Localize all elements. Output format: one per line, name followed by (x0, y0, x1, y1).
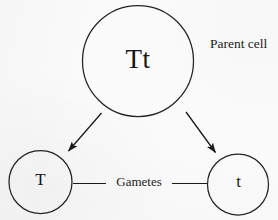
parent-cell-genotype: Tt (103, 46, 173, 73)
arrow-to-right-gamete (186, 112, 216, 153)
arrow-to-left-gamete (69, 113, 102, 151)
gamete-right-allele: t (216, 173, 261, 190)
genetics-diagram: Tt Parent cell T t Gametes (0, 0, 278, 220)
gamete-left-allele: T (18, 171, 63, 188)
parent-cell-caption: Parent cell (210, 37, 278, 51)
gametes-caption: Gametes (110, 175, 168, 188)
